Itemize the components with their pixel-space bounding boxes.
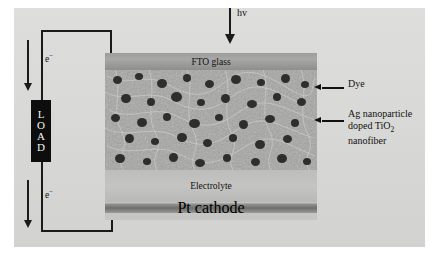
ag-nanoparticle [183, 74, 191, 82]
circuit-wire-left-upper [41, 30, 43, 102]
electron-arrow-lower-head [24, 220, 32, 228]
solar-cell-stack: FTO glass [105, 53, 317, 220]
ag-nanoparticle [135, 73, 143, 80]
load-letter-d: D [37, 142, 45, 153]
callout-nanofiber-line3: nanofiber [348, 135, 412, 147]
ag-nanoparticle [177, 133, 187, 142]
callout-nanofiber-line2: doped TiO2 [348, 120, 412, 135]
layer-fto-glass: FTO glass [105, 53, 317, 70]
callout-nanofiber: Ag nanoparticle doped TiO2 nanofiber [348, 108, 412, 146]
ag-nanoparticle [229, 134, 237, 142]
callout-dye: Dye [348, 78, 365, 89]
photon-label: hv [237, 7, 247, 18]
ag-nanoparticle [273, 93, 281, 101]
ag-nanoparticle [137, 118, 147, 127]
ag-nanoparticle [197, 99, 205, 106]
ag-nanoparticle [221, 94, 230, 103]
ag-nanoparticle [223, 154, 231, 162]
ag-nanoparticle [297, 98, 306, 106]
ag-nanoparticle [277, 154, 287, 163]
circuit-wire-bottom [41, 230, 113, 232]
ag-nanoparticle [169, 153, 178, 162]
ag-nanoparticle [157, 79, 167, 88]
layer-substrate-bottom [105, 213, 317, 220]
ag-nanoparticle [247, 100, 257, 108]
dye-leader-line [322, 87, 344, 89]
ag-nanoparticle [151, 138, 159, 145]
electron-arrow-upper-head [24, 83, 32, 91]
figure-canvas: L O A D e− e− hv FTO glass [0, 0, 440, 258]
circuit-wire-top [42, 30, 112, 32]
ag-nanoparticle [215, 114, 223, 121]
ag-nanoparticle [195, 159, 205, 167]
photon-arrow-shaft [229, 8, 231, 36]
layer-electrolyte: Electrolyte [105, 170, 317, 202]
layer-label-electrolyte: Electrolyte [190, 181, 232, 191]
ag-nanoparticle [121, 94, 131, 103]
ag-nanoparticle [115, 154, 125, 163]
nanofiber-leader-arrow [314, 117, 321, 123]
ag-nanoparticle [281, 74, 290, 83]
ag-nanoparticle [113, 76, 122, 84]
electron-arrow-upper-shaft [27, 40, 29, 85]
layer-label-pt-cathode-wrap: Pt cathode [105, 202, 317, 213]
ag-nanoparticle [163, 113, 171, 121]
nanofiber-leader-line [322, 120, 344, 122]
ag-nanoparticle [111, 114, 120, 122]
photon-arrow-head [225, 34, 235, 44]
ag-nanoparticle [291, 119, 299, 127]
ag-nanoparticle [125, 134, 134, 143]
ag-nanoparticle [303, 158, 311, 165]
electron-arrow-lower-shaft [27, 180, 29, 222]
electron-label-upper: e− [45, 52, 53, 64]
load-box[interactable]: L O A D [31, 100, 51, 162]
ag-nanoparticle [171, 92, 182, 102]
ag-nanoparticle [143, 158, 151, 165]
layer-active-nanofiber [105, 70, 317, 170]
callout-nanofiber-line1: Ag nanoparticle [348, 108, 412, 120]
ag-nanoparticle [239, 120, 248, 129]
electron-label-lower: e− [45, 188, 53, 200]
ag-nanoparticle [189, 119, 200, 128]
ag-nanoparticle [251, 158, 260, 166]
ag-nanoparticle [147, 98, 155, 106]
ag-nanoparticle [205, 80, 214, 88]
ag-nanoparticle [283, 135, 292, 143]
circuit-wire-left-lower [41, 160, 43, 232]
layer-label-fto-glass: FTO glass [191, 57, 230, 67]
ag-nanoparticle [203, 139, 212, 147]
dye-leader-arrow [314, 84, 321, 90]
ag-nanoparticle [255, 140, 265, 149]
ag-nanoparticle [301, 81, 309, 88]
ag-nanoparticle [265, 115, 275, 123]
ag-nanoparticle [231, 75, 241, 84]
ag-nanoparticle [257, 79, 265, 86]
